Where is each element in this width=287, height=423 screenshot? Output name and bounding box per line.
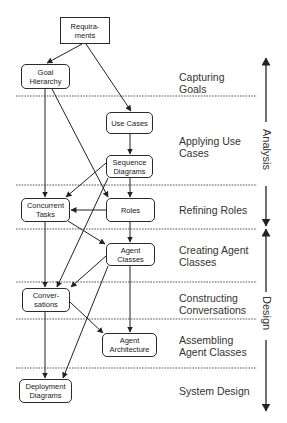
edge-sequence-diagrams-concurrent-tasks	[66, 163, 106, 197]
phase-applying-use-cases: Applying Use Cases	[179, 135, 241, 159]
edge-sequence-diagrams-conversations	[57, 178, 108, 287]
node-sequence-diagrams-label: Sequence Diagrams	[113, 158, 147, 176]
phase-refining-roles: Refining Roles	[179, 204, 247, 216]
edge-requirements-use-cases	[86, 44, 131, 111]
node-agent-architecture: Agent Architecture	[102, 333, 157, 357]
phase-creating-agent-classes: Creating Agent Classes	[179, 244, 248, 268]
node-agent-architecture-label: Agent Architecture	[109, 336, 149, 354]
node-roles-label: Roles	[121, 206, 140, 215]
edge-goal-hierarchy-roles	[52, 89, 108, 197]
edge-agent-classes-deployment-diagrams	[63, 266, 108, 378]
stage-design-label: Design	[261, 296, 273, 330]
phase-assembling-agent-classes: Assembling Agent Classes	[179, 334, 247, 358]
node-concurrent-tasks-label: Concurrent Tasks	[27, 201, 64, 219]
node-goal-hierarchy-label: Goal Hierarchy	[29, 68, 61, 86]
node-agent-classes-label: Agent Classes	[117, 246, 144, 264]
node-requirements: Requira- ments	[60, 17, 110, 44]
phase-system-design: System Design	[179, 385, 250, 397]
mase-methodology-diagram: Requira- ments Goal Hierarchy Use Cases …	[0, 0, 287, 423]
edge-conversations-agent-architecture	[70, 302, 103, 333]
node-use-cases: Use Cases	[106, 112, 153, 134]
node-roles: Roles	[106, 198, 155, 222]
phase-capturing-goals: Capturing Goals	[179, 71, 225, 95]
phase-constructing-conversations: Constructing Conversations	[179, 292, 246, 316]
node-conversations-label: Conver- sations	[33, 291, 60, 309]
node-deployment-diagrams-label: Deployment Diagrams	[25, 382, 65, 400]
node-sequence-diagrams: Sequence Diagrams	[106, 155, 153, 178]
node-deployment-diagrams: Deployment Diagrams	[19, 379, 72, 403]
node-conversations: Conver- sations	[22, 288, 70, 312]
stage-analysis-label: Analysis	[261, 129, 273, 170]
node-use-cases-label: Use Cases	[111, 119, 148, 128]
edge-requirements-goal-hierarchy	[47, 44, 82, 63]
node-concurrent-tasks: Concurrent Tasks	[21, 198, 70, 222]
node-requirements-label: Requira- ments	[71, 22, 100, 40]
node-goal-hierarchy: Goal Hierarchy	[21, 64, 70, 89]
node-agent-classes: Agent Classes	[106, 243, 155, 266]
